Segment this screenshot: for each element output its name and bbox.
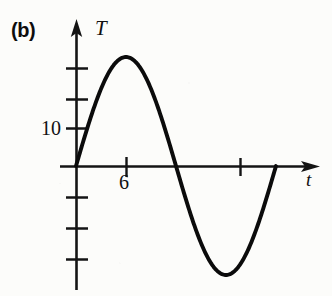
y-axis-label: T xyxy=(95,18,107,39)
graph-canvas xyxy=(0,0,332,296)
figure-panel-b: (b) T t 10 6 xyxy=(0,0,332,296)
x-axis-label: t xyxy=(306,170,311,189)
x-axis-group xyxy=(60,157,320,177)
y-axis-group xyxy=(66,19,88,290)
y-axis-tick-label-10: 10 xyxy=(41,118,61,138)
panel-label: (b) xyxy=(11,20,35,40)
x-axis-tick-label-6: 6 xyxy=(119,172,129,192)
